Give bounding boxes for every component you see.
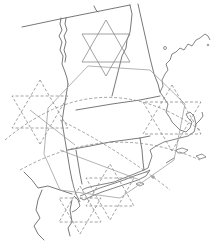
ct-ri-border (140, 138, 144, 170)
vt-nh-border (112, 5, 132, 96)
northeast-us-map (0, 0, 215, 243)
island (164, 47, 167, 50)
ma-coast (150, 92, 196, 150)
border-notch (94, 6, 98, 12)
solid-hexagram (82, 20, 130, 76)
nantucket (196, 154, 206, 159)
dashed-arc-middle (20, 142, 200, 170)
dashed-hexagram-south-west (59, 186, 101, 234)
canada-border (22, 5, 130, 27)
connector-line-2 (30, 110, 75, 145)
maine-coast (160, 34, 210, 92)
ma-north-border (76, 96, 160, 110)
nh-maine-border (138, 4, 160, 92)
nj-border (34, 190, 44, 240)
dashed-hexagram-west (12, 80, 68, 144)
ct-ny-border (76, 150, 82, 184)
cape-cod (196, 112, 203, 124)
long-island (80, 170, 150, 200)
island-small (207, 44, 209, 46)
connector-line-1 (60, 150, 140, 180)
hudson-river (72, 180, 80, 202)
marthas-vineyard (176, 148, 188, 153)
lake-champlain-east (64, 18, 67, 62)
ri-coast (144, 150, 152, 170)
dashed-hexagram-east (143, 85, 201, 151)
